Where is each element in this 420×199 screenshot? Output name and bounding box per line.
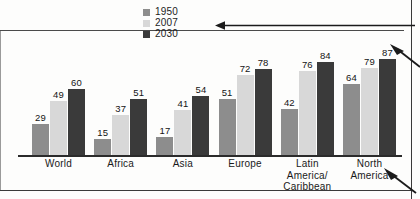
- bar: [174, 110, 191, 156]
- plot-area: 294960153751174154517278427684647987: [18, 28, 402, 156]
- bar-value-label: 42: [284, 98, 295, 108]
- x-axis-line: [18, 155, 402, 157]
- bar-group: 153751: [94, 28, 147, 156]
- bar: [130, 99, 147, 156]
- bar-group: 427684: [281, 28, 334, 156]
- bar: [68, 89, 85, 156]
- bar-value-label: 64: [346, 73, 357, 83]
- bar-value-label: 84: [320, 51, 331, 61]
- bar: [50, 101, 67, 156]
- bar-value-label: 15: [97, 128, 108, 138]
- bar: [219, 99, 236, 156]
- bar-value-label: 51: [133, 88, 144, 98]
- bar-group: 647987: [343, 28, 396, 156]
- bar-value-label: 76: [302, 60, 313, 70]
- chart-screenshot: 1950 2007 2030 2949601537511741545172784…: [0, 0, 420, 199]
- bar-group: 174154: [156, 28, 209, 156]
- bar: [299, 71, 316, 156]
- bar-value-label: 54: [196, 85, 207, 95]
- bar-group: 294960: [32, 28, 85, 156]
- bar-column: 17: [156, 28, 173, 156]
- bar-value-label: 87: [382, 48, 393, 58]
- bar-column: 42: [281, 28, 298, 156]
- bar: [379, 59, 396, 156]
- bar-value-label: 60: [71, 78, 82, 88]
- bar-column: 84: [317, 28, 334, 156]
- bar-column: 72: [237, 28, 254, 156]
- bar-value-label: 72: [240, 64, 251, 74]
- bar: [112, 115, 129, 156]
- bar: [361, 68, 378, 156]
- bar: [317, 62, 334, 156]
- bar-value-label: 29: [35, 113, 46, 123]
- bar-column: 60: [68, 28, 85, 156]
- bar: [156, 137, 173, 156]
- bar: [343, 84, 360, 156]
- bar-column: 79: [361, 28, 378, 156]
- bar-column: 15: [94, 28, 111, 156]
- bar-value-label: 78: [258, 58, 269, 68]
- bar: [94, 139, 111, 156]
- bar-column: 51: [219, 28, 236, 156]
- bar-column: 87: [379, 28, 396, 156]
- bar-group-bars: 174154: [156, 28, 209, 156]
- bar: [255, 69, 272, 156]
- bar-value-label: 41: [178, 99, 189, 109]
- chart-legend: 1950 2007 2030: [143, 7, 178, 39]
- bar-column: 37: [112, 28, 129, 156]
- x-axis-category-label: NorthAmerica: [329, 158, 410, 181]
- bar-group-bars: 427684: [281, 28, 334, 156]
- bar-value-label: 49: [53, 90, 64, 100]
- bar: [237, 75, 254, 156]
- bar: [32, 124, 49, 156]
- legend-label-1950: 1950: [155, 7, 178, 17]
- legend-item-1950: 1950: [143, 7, 178, 17]
- legend-label-2030: 2030: [155, 29, 178, 39]
- bar: [192, 96, 209, 156]
- page-border-right: [411, 0, 412, 199]
- bar: [281, 109, 298, 156]
- bar-value-label: 37: [115, 104, 126, 114]
- clipped-text-above-chart: [0, 0, 412, 7]
- bar-group-bars: 647987: [343, 28, 396, 156]
- bar-column: 76: [299, 28, 316, 156]
- bar-column: 49: [50, 28, 67, 156]
- legend-item-2007: 2007: [143, 18, 178, 28]
- legend-swatch-2007: [143, 20, 150, 27]
- bar-group: 517278: [219, 28, 272, 156]
- bar-column: 41: [174, 28, 191, 156]
- legend-item-2030: 2030: [143, 29, 178, 39]
- x-axis-labels: WorldAfricaAsiaEuropeLatinAmerica/Caribb…: [18, 158, 402, 198]
- bar-column: 78: [255, 28, 272, 156]
- bar-column: 51: [130, 28, 147, 156]
- legend-label-2007: 2007: [155, 18, 178, 28]
- page-border-left: [0, 30, 1, 190]
- bar-value-label: 51: [222, 88, 233, 98]
- bar-group-bars: 294960: [32, 28, 85, 156]
- bar-column: 29: [32, 28, 49, 156]
- legend-swatch-2030: [143, 31, 150, 38]
- bar-column: 64: [343, 28, 360, 156]
- bar-group-bars: 517278: [219, 28, 272, 156]
- bar-column: 54: [192, 28, 209, 156]
- bar-value-label: 79: [364, 57, 375, 67]
- bar-value-label: 17: [160, 126, 171, 136]
- legend-swatch-1950: [143, 9, 150, 16]
- bar-group-bars: 153751: [94, 28, 147, 156]
